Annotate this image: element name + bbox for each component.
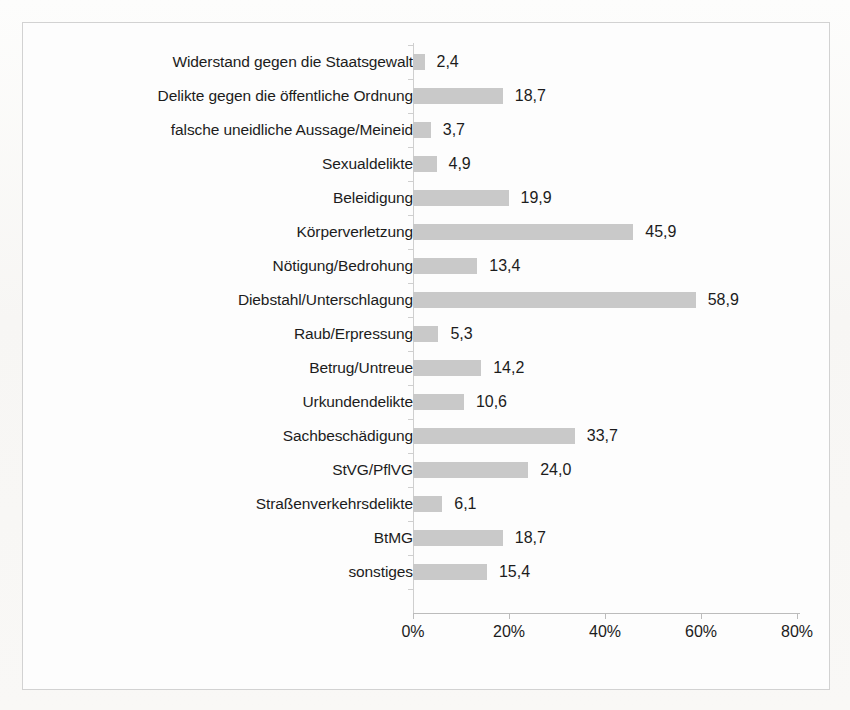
bar-row: Widerstand gegen die Staatsgewalt2,4	[23, 45, 831, 79]
category-tick	[408, 555, 413, 556]
plot-area: Widerstand gegen die Staatsgewalt2,4Deli…	[23, 23, 831, 691]
bar[interactable]	[413, 224, 633, 240]
category-axis-line	[413, 613, 800, 614]
value-tick-label: 60%	[661, 623, 741, 641]
bar[interactable]	[413, 428, 575, 444]
category-label: Urkundendelikte	[302, 385, 413, 419]
bar-container: 3,7	[413, 113, 551, 147]
category-tick	[408, 351, 413, 352]
category-tick	[408, 419, 413, 420]
chart-frame: Widerstand gegen die Staatsgewalt2,4Deli…	[22, 22, 830, 690]
bar[interactable]	[413, 122, 431, 138]
bar-value-label: 14,2	[493, 351, 524, 385]
bar[interactable]	[413, 190, 509, 206]
bar-container: 4,9	[413, 147, 557, 181]
bar-row: Betrug/Untreue14,2	[23, 351, 831, 385]
category-label: StVG/PflVG	[332, 453, 413, 487]
bar[interactable]	[413, 530, 503, 546]
category-label: Nötigung/Bedrohung	[273, 249, 413, 283]
bar-container: 33,7	[413, 419, 695, 453]
category-tick	[408, 45, 413, 46]
bar-container: 2,4	[413, 45, 545, 79]
category-label: Straßenverkehrsdelikte	[256, 487, 413, 521]
bar-value-label: 24,0	[540, 453, 571, 487]
category-tick	[408, 589, 413, 590]
bar-row: Diebstahl/Unterschlagung58,9	[23, 283, 831, 317]
bar[interactable]	[413, 258, 477, 274]
bar-container: 45,9	[413, 215, 753, 249]
category-label: Diebstahl/Unterschlagung	[238, 283, 413, 317]
bar-container: 58,9	[413, 283, 816, 317]
bar-row: Straßenverkehrsdelikte6,1	[23, 487, 831, 521]
bar-row: StVG/PflVG24,0	[23, 453, 831, 487]
category-tick	[408, 249, 413, 250]
bar-value-label: 10,6	[476, 385, 507, 419]
value-tick	[413, 613, 414, 619]
value-tick	[509, 613, 510, 619]
bar[interactable]	[413, 54, 425, 70]
bar-container: 6,1	[413, 487, 562, 521]
value-tick-label: 0%	[373, 623, 453, 641]
bar[interactable]	[413, 292, 696, 308]
value-tick-label: 20%	[469, 623, 549, 641]
bar-container: 18,7	[413, 79, 623, 113]
bar-value-label: 13,4	[489, 249, 520, 283]
bar-container: 13,4	[413, 249, 597, 283]
bar-value-label: 5,3	[450, 317, 472, 351]
bar-container: 5,3	[413, 317, 558, 351]
bar-value-label: 2,4	[437, 45, 459, 79]
bar-row: sonstiges15,4	[23, 555, 831, 589]
bar-container: 15,4	[413, 555, 607, 589]
category-label: sonstiges	[348, 555, 413, 589]
category-label: Betrug/Untreue	[309, 351, 413, 385]
bar[interactable]	[413, 394, 464, 410]
category-tick	[408, 453, 413, 454]
value-tick-label: 80%	[757, 623, 837, 641]
bar[interactable]	[413, 326, 438, 342]
bar-value-label: 18,7	[515, 521, 546, 555]
bar-value-label: 33,7	[587, 419, 618, 453]
bar-value-label: 15,4	[499, 555, 530, 589]
category-label: Widerstand gegen die Staatsgewalt	[172, 45, 413, 79]
bar-value-label: 6,1	[454, 487, 476, 521]
bar-value-label: 3,7	[443, 113, 465, 147]
value-tick	[605, 613, 606, 619]
bar-row: Nötigung/Bedrohung13,4	[23, 249, 831, 283]
category-tick	[408, 215, 413, 216]
bar-value-label: 4,9	[449, 147, 471, 181]
bar-row: Urkundendelikte10,6	[23, 385, 831, 419]
bar[interactable]	[413, 564, 487, 580]
category-label: Körperverletzung	[297, 215, 413, 249]
category-tick	[408, 181, 413, 182]
bar-container: 24,0	[413, 453, 648, 487]
bar-container: 10,6	[413, 385, 584, 419]
category-label: Beleidigung	[333, 181, 413, 215]
bar-row: Sachbeschädigung33,7	[23, 419, 831, 453]
bar-row: Sexualdelikte4,9	[23, 147, 831, 181]
bar[interactable]	[413, 462, 528, 478]
category-tick	[408, 79, 413, 80]
category-tick	[408, 147, 413, 148]
category-label: Raub/Erpressung	[294, 317, 413, 351]
bar[interactable]	[413, 156, 437, 172]
category-label: BtMG	[374, 521, 413, 555]
category-tick	[408, 385, 413, 386]
bar-row: Beleidigung19,9	[23, 181, 831, 215]
bar-row: Raub/Erpressung5,3	[23, 317, 831, 351]
category-tick	[408, 317, 413, 318]
category-tick	[408, 521, 413, 522]
category-tick	[408, 113, 413, 114]
bar-value-label: 45,9	[645, 215, 676, 249]
bar-row: falsche uneidliche Aussage/Meineid3,7	[23, 113, 831, 147]
bar[interactable]	[413, 88, 503, 104]
category-label: Sachbeschädigung	[283, 419, 413, 453]
bar[interactable]	[413, 496, 442, 512]
bar-row: BtMG18,7	[23, 521, 831, 555]
category-label: Sexualdelikte	[322, 147, 413, 181]
bar-value-label: 19,9	[521, 181, 552, 215]
bar[interactable]	[413, 360, 481, 376]
bar-value-label: 18,7	[515, 79, 546, 113]
value-tick-label: 40%	[565, 623, 645, 641]
value-tick	[797, 613, 798, 619]
category-label: falsche uneidliche Aussage/Meineid	[171, 113, 413, 147]
